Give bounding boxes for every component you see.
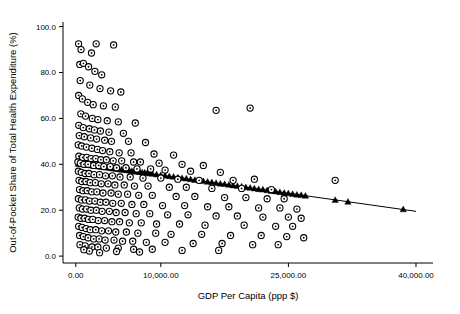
data-point-observed-center xyxy=(87,101,89,103)
data-point-observed-center xyxy=(151,194,153,196)
data-point-observed-center xyxy=(185,186,187,188)
data-point-observed-center xyxy=(83,62,85,64)
data-point-observed-center xyxy=(132,240,134,242)
data-point-observed-center xyxy=(177,178,179,180)
data-point-observed-center xyxy=(120,91,122,93)
data-point-observed-center xyxy=(111,221,113,223)
data-point-observed-center xyxy=(202,165,204,167)
data-point-observed-center xyxy=(117,121,119,123)
data-point-observed-center xyxy=(106,120,108,122)
data-point-observed-center xyxy=(145,142,147,144)
data-point-observed-center xyxy=(173,154,175,156)
data-point-observed-center xyxy=(92,218,94,220)
data-point-observed-center xyxy=(162,205,164,207)
data-point-observed-center xyxy=(80,49,82,51)
data-point-observed-center xyxy=(85,146,87,148)
data-point-observed-center xyxy=(105,201,107,203)
data-point-observed-center xyxy=(139,251,141,253)
data-point-observed-center xyxy=(93,174,95,176)
data-point-observed-center xyxy=(94,129,96,131)
data-point-observed-center xyxy=(95,158,97,160)
data-point-observed-center xyxy=(114,184,116,186)
data-point-observed-center xyxy=(300,217,302,219)
scatter-chart: 0.020.040.060.080.0100.00.0010,000.0025,… xyxy=(0,0,460,314)
data-point-observed-center xyxy=(78,124,80,126)
data-point-observed-center xyxy=(96,191,98,193)
data-point-observed-center xyxy=(219,171,221,173)
data-point-observed-center xyxy=(116,167,118,169)
data-point-observed-center xyxy=(101,74,103,76)
data-point-observed-center xyxy=(145,241,147,243)
data-point-observed-center xyxy=(232,179,234,181)
data-point-observed-center xyxy=(97,246,99,248)
data-point-observed-center xyxy=(128,140,130,142)
data-point-observed-center xyxy=(156,223,158,225)
data-point-observed-center xyxy=(93,238,95,240)
data-point-observed-center xyxy=(86,157,88,159)
data-point-observed-center xyxy=(158,162,160,164)
data-point-observed-center xyxy=(104,139,106,141)
data-point-observed-center xyxy=(123,184,125,186)
data-point-observed-center xyxy=(94,70,96,72)
data-point-observed-center xyxy=(164,169,166,171)
data-point-observed-center xyxy=(104,220,106,222)
data-point-observed-center xyxy=(138,194,140,196)
data-point-observed-center xyxy=(151,248,153,250)
data-point-observed-center xyxy=(98,165,100,167)
data-point-observed-center xyxy=(236,215,238,217)
data-point-observed-center xyxy=(221,243,223,245)
data-point-observed-center xyxy=(97,220,99,222)
data-point-observed-center xyxy=(108,131,110,133)
data-point-observed-center xyxy=(168,186,170,188)
data-point-observed-center xyxy=(93,165,95,167)
data-point-observed-center xyxy=(112,202,114,204)
x-tick-label: 40,000.00 xyxy=(398,271,434,280)
y-axis-title: Out-of-Pocket Share of Total Health Expe… xyxy=(7,32,18,253)
data-point-observed-center xyxy=(99,174,101,176)
data-point-observed-center xyxy=(100,183,102,185)
data-point-observed-center xyxy=(249,107,251,109)
data-point-observed-center xyxy=(266,198,268,200)
data-point-observed-center xyxy=(181,249,183,251)
data-point-observed-center xyxy=(91,191,93,193)
data-point-observed-center xyxy=(119,221,121,223)
data-point-observed-center xyxy=(100,159,102,161)
data-point-observed-center xyxy=(129,176,131,178)
data-point-observed-center xyxy=(175,196,177,198)
data-point-observed-center xyxy=(80,113,82,115)
chart-canvas: 0.020.040.060.080.0100.00.0010,000.0025,… xyxy=(0,0,460,314)
data-point-observed-center xyxy=(111,175,113,177)
data-point-observed-center xyxy=(135,213,137,215)
data-point-observed-center xyxy=(91,52,93,54)
data-point-observed-center xyxy=(102,192,104,194)
data-point-observed-center xyxy=(92,104,94,106)
data-point-observed-center xyxy=(103,166,105,168)
y-tick-label: 40.0 xyxy=(40,160,56,169)
data-point-observed-center xyxy=(114,106,116,108)
data-point-observed-center xyxy=(120,202,122,204)
data-point-observed-center xyxy=(122,240,124,242)
data-point-observed-center xyxy=(90,209,92,211)
data-point-observed-center xyxy=(204,224,206,226)
data-point-observed-center xyxy=(215,215,217,217)
data-point-observed-center xyxy=(108,230,110,232)
data-point-observed-center xyxy=(91,118,93,120)
data-point-observed-center xyxy=(99,88,101,90)
data-point-observed-center xyxy=(262,216,264,218)
data-point-observed-center xyxy=(279,207,281,209)
data-point-observed-center xyxy=(292,225,294,227)
x-axis-title: GDP Per Capita (ppp $) xyxy=(198,290,299,301)
data-point-observed-center xyxy=(88,250,90,252)
data-point-observed-center xyxy=(218,249,220,251)
data-point-observed-center xyxy=(252,244,254,246)
data-point-observed-center xyxy=(87,237,89,239)
data-point-observed-center xyxy=(89,84,91,86)
data-point-observed-center xyxy=(88,173,90,175)
data-point-observed-center xyxy=(105,247,107,249)
data-point-observed-center xyxy=(78,95,80,97)
data-point-observed-center xyxy=(184,205,186,207)
data-point-observed-center xyxy=(241,188,243,190)
data-point-observed-center xyxy=(118,152,120,154)
data-point-observed-center xyxy=(87,163,89,165)
data-point-observed-center xyxy=(125,231,127,233)
